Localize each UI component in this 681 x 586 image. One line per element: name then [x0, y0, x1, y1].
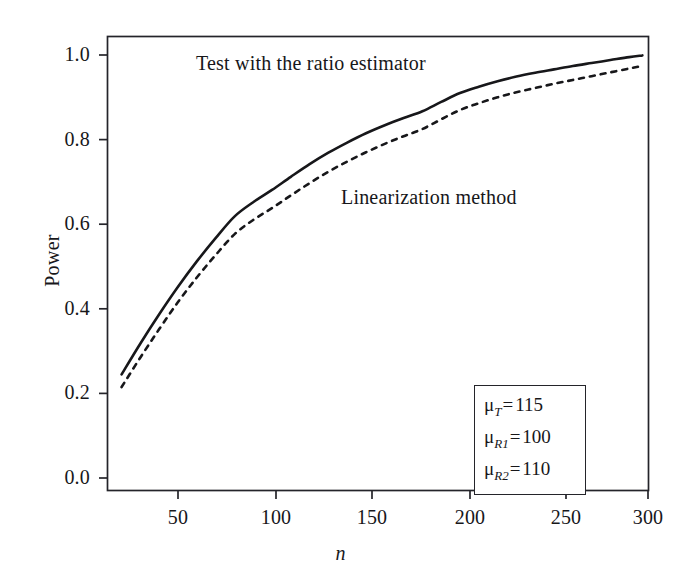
param-symbol: μ — [484, 394, 494, 415]
plot-area — [0, 0, 681, 586]
y-tick-label-3: 0.6 — [28, 212, 90, 235]
curve-linearization-method — [122, 66, 643, 387]
param-value: 110 — [522, 458, 550, 479]
param-value: 115 — [515, 394, 543, 415]
annotation-test-with-ratio-estimator: Test with the ratio estimator — [196, 52, 426, 75]
param-symbol: μ — [484, 426, 494, 447]
parameter-legend-box: μT=115 μR1=100 μR2=110 — [474, 385, 586, 495]
param-equals: = — [510, 458, 521, 479]
x-tick-label-250: 250 — [531, 506, 601, 529]
x-tick-label-150: 150 — [337, 506, 407, 529]
param-row-mu-r2: μR2=110 — [484, 456, 576, 488]
power-curve-figure: Power 0.0 0.2 0.4 0.6 0.8 1.0 50 100 150… — [0, 0, 681, 586]
param-equals: = — [510, 426, 521, 447]
y-tick-label-5: 1.0 — [28, 43, 90, 66]
y-tick-label-4: 0.8 — [28, 128, 90, 151]
y-tick-label-0: 0.0 — [28, 466, 90, 489]
y-tick-label-2: 0.4 — [28, 297, 90, 320]
y-tick-label-1: 0.2 — [28, 381, 90, 404]
param-subscript: R2 — [494, 467, 508, 482]
x-tick-label-100: 100 — [241, 506, 311, 529]
x-tick-label-300: 300 — [613, 506, 681, 529]
x-tick-label-200: 200 — [435, 506, 505, 529]
param-value: 100 — [522, 426, 551, 447]
param-row-mu-r1: μR1=100 — [484, 424, 576, 456]
param-equals: = — [502, 394, 513, 415]
y-axis-tick-marks — [99, 55, 107, 478]
curve-test-with-ratio-estimator — [122, 55, 643, 374]
param-subscript: T — [494, 404, 501, 419]
param-symbol: μ — [484, 458, 494, 479]
x-axis-title: n — [0, 542, 681, 565]
annotation-linearization-method: Linearization method — [341, 186, 517, 209]
x-tick-label-50: 50 — [143, 506, 213, 529]
param-row-mu-t: μT=115 — [484, 392, 576, 424]
param-subscript: R1 — [494, 436, 508, 451]
